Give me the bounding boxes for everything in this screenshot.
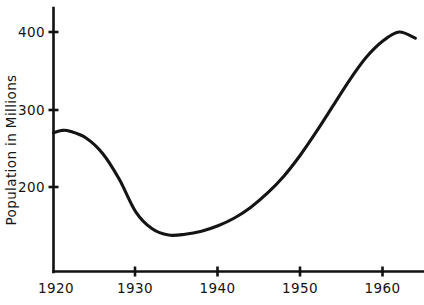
x-tick-label-1950: 1950 xyxy=(282,280,318,296)
population-curve xyxy=(54,32,416,235)
y-tick-label-300: 300 xyxy=(18,102,45,118)
y-axis-title: Population in Millions xyxy=(3,74,19,225)
population-line-chart: 400 300 200 1920 1930 1940 1950 1960 Pop… xyxy=(0,0,424,305)
y-tick-label-400: 400 xyxy=(18,24,45,40)
x-tick-label-1960: 1960 xyxy=(365,280,401,296)
y-tick-label-200: 200 xyxy=(18,179,45,195)
x-tick-label-1920: 1920 xyxy=(38,280,74,296)
x-tick-label-1940: 1940 xyxy=(200,280,236,296)
x-tick-label-1930: 1930 xyxy=(117,280,153,296)
chart-canvas: 400 300 200 1920 1930 1940 1950 1960 Pop… xyxy=(0,0,424,305)
